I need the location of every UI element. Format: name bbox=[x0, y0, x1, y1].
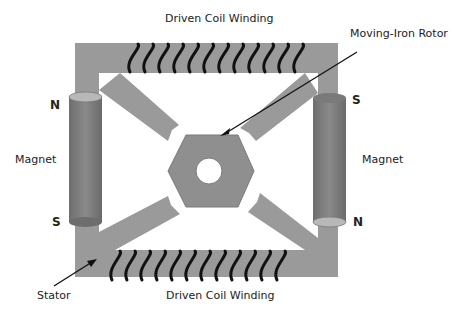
pole-left-top: N bbox=[50, 99, 60, 111]
rotor-label: Moving-Iron Rotor bbox=[350, 28, 448, 39]
left-magnet-label: Magnet bbox=[15, 154, 56, 165]
stator-arm-top-left bbox=[99, 73, 179, 141]
right-magnet bbox=[313, 93, 346, 227]
right-magnet-label: Magnet bbox=[362, 154, 403, 165]
stator-arm-bottom-left bbox=[99, 196, 180, 250]
rotor-hole bbox=[196, 158, 222, 184]
pole-left-bottom: S bbox=[52, 216, 61, 228]
pole-right-top: S bbox=[352, 94, 361, 106]
pole-right-bottom: N bbox=[353, 216, 363, 228]
stator-arm-bottom-right bbox=[248, 193, 318, 250]
top-coil-label: Driven Coil Winding bbox=[165, 13, 273, 24]
left-magnet bbox=[69, 92, 102, 227]
moving-iron-rotor bbox=[168, 135, 254, 207]
stator-label: Stator bbox=[37, 290, 71, 301]
bottom-coil-label: Driven Coil Winding bbox=[166, 290, 274, 301]
